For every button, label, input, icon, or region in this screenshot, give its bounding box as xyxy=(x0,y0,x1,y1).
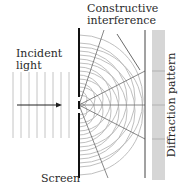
incident-label-line2: light xyxy=(16,60,62,72)
diffraction-pattern-strip xyxy=(152,30,165,180)
constructive-leader-line xyxy=(117,34,140,70)
diffraction-pattern-label: Diffraction pattern xyxy=(165,53,178,158)
diffraction-diagram xyxy=(0,0,187,188)
constructive-label-line2: interference xyxy=(87,15,158,27)
constructive-interference-label: Constructive interference xyxy=(87,3,158,27)
screen-label: Screen xyxy=(41,173,80,185)
incident-light-label: Incident light xyxy=(16,48,62,72)
incident-arrow-icon xyxy=(17,103,62,108)
